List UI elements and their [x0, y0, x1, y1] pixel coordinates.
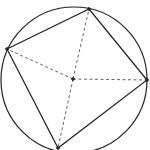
radius-to-right	[73, 79, 147, 80]
radius-to-left	[7, 49, 73, 79]
dashed-radii	[7, 9, 147, 148]
radius-to-top	[73, 9, 89, 79]
vertex-markers	[5, 7, 149, 150]
inscribed-quadrilateral	[7, 9, 147, 148]
center-point-marker	[71, 77, 75, 81]
geometry-diagram	[0, 0, 150, 150]
